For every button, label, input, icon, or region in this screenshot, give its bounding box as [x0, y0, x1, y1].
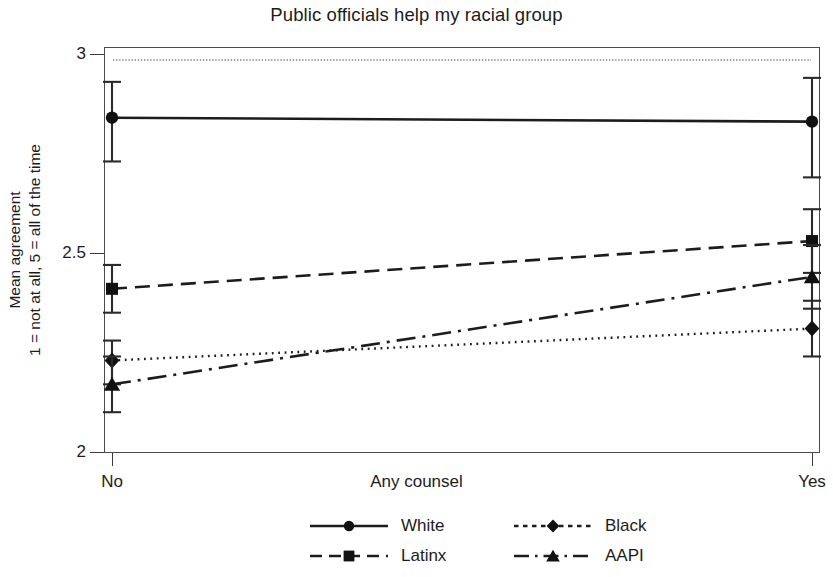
legend-item-black[interactable]: Black: [512, 512, 647, 540]
chart-figure: Public officials help my racial group Me…: [0, 0, 833, 577]
legend-label-latinx: Latinx: [401, 546, 446, 566]
legend-label-white: White: [401, 516, 444, 536]
data-point-latinx: [106, 283, 118, 295]
x-tick-label: Yes: [798, 472, 826, 492]
legend-key-black-icon: [512, 515, 594, 537]
y-tick-mark: [90, 452, 104, 453]
series-line-latinx: [112, 241, 812, 289]
legend: White Black La: [300, 512, 700, 574]
y-tick-mark: [90, 253, 104, 254]
y-tick-mark: [90, 54, 104, 55]
legend-key-aapi-icon: [512, 545, 594, 567]
series-line-black: [112, 329, 812, 361]
x-tick-mark: [112, 453, 113, 466]
series-line-aapi: [112, 277, 812, 384]
plot-data-layer: [0, 0, 833, 577]
data-point-black: [805, 321, 820, 337]
legend-label-aapi: AAPI: [605, 546, 644, 566]
legend-item-white[interactable]: White: [308, 512, 444, 540]
legend-key-latinx-icon: [308, 545, 390, 567]
legend-label-black: Black: [605, 516, 647, 536]
x-tick-label: No: [101, 472, 123, 492]
data-point-white: [806, 115, 818, 127]
data-point-white: [106, 111, 118, 123]
legend-item-latinx[interactable]: Latinx: [308, 542, 446, 570]
legend-key-white-icon: [308, 515, 390, 537]
series-line-white: [112, 118, 812, 122]
x-tick-mark: [812, 453, 813, 466]
data-point-aapi: [804, 269, 820, 283]
legend-item-aapi[interactable]: AAPI: [512, 542, 644, 570]
